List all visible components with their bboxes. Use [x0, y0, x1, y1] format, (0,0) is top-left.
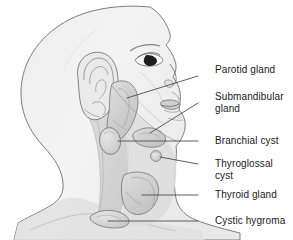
head-neck-illustration [0, 0, 293, 240]
label-parotid-gland: Parotid gland [215, 64, 275, 76]
label-thyroglossal-cyst: Thyroglossal cyst [215, 158, 273, 181]
label-cystic-hygroma: Cystic hygroma [215, 215, 285, 227]
anatomy-figure: Parotid gland Submandibular gland Branch… [0, 0, 293, 240]
label-branchial-cyst: Branchial cyst [215, 135, 279, 147]
label-submandibular-gland: Submandibular gland [215, 91, 284, 114]
thyroglossal-cyst-body [151, 151, 162, 162]
label-thyroid-gland: Thyroid gland [215, 189, 277, 201]
thyroglossal-cyst-shape [151, 151, 162, 162]
